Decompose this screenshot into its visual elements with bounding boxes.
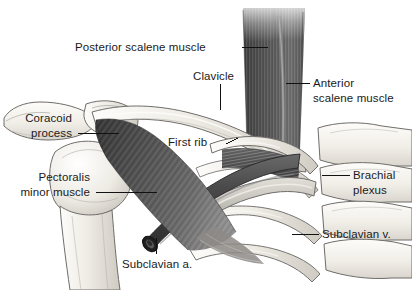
label-coracoid-process: Coracoid process [0,111,72,140]
label-text-line1: Clavicle [193,70,234,82]
label-text-line1: Posterior scalene muscle [75,41,206,53]
label-anterior-scalene-muscle: Anterior scalene muscle [313,76,394,105]
label-text-line1: Brachial [353,169,395,181]
label-brachial-plexus: Brachial plexus [353,168,395,197]
label-text-line1: Subclavian v. [322,228,391,240]
label-first-rib: First rib [168,135,207,150]
label-text-line1: Subclavian a. [122,258,192,270]
label-text-line2: minor muscle [0,185,90,200]
label-text-line2: scalene muscle [313,91,394,106]
label-subclavian-artery: Subclavian a. [122,257,192,272]
label-text-line1: First rib [168,136,207,148]
label-text-line1: Pectoralis [39,171,91,183]
label-text-line1: Anterior [313,77,354,89]
label-posterior-scalene-muscle: Posterior scalene muscle [75,40,206,55]
anatomy-figure: Posterior scalene muscle Clavicle Anteri… [0,0,412,290]
label-text-line1: Coracoid [25,112,72,124]
humerus-shaft-shape [60,206,120,290]
label-pectoralis-minor-muscle: Pectoralis minor muscle [0,170,90,199]
label-clavicle: Clavicle [193,69,234,84]
label-subclavian-vein: Subclavian v. [322,227,391,242]
label-text-line2: plexus [353,183,395,198]
label-text-line2: process [0,126,72,141]
